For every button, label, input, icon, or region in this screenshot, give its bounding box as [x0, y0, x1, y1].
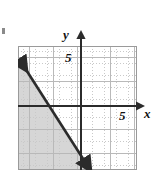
y-axis-label: y	[63, 28, 69, 41]
y-axis	[80, 34, 82, 170]
x-axis-label: x	[144, 107, 151, 120]
bracket-mark-icon	[2, 28, 5, 34]
y-tick-label-5: 5	[65, 51, 72, 64]
graph-figure: y x 5 5	[0, 0, 155, 170]
x-tick-label-5: 5	[119, 109, 126, 122]
